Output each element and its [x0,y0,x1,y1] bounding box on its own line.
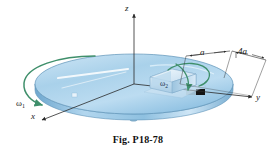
axis-label-z: z [125,4,129,13]
figure-caption: Fig. P18-78 [0,134,276,145]
dimension-label-4a: 4a [238,47,247,56]
omega2-label: ω2 [160,80,168,90]
axis-label-y: y [256,93,260,102]
dimension-label-a: a [200,48,205,57]
figure-container: z x y a 4a ω1 ω2 Fig. P18-78 [0,0,276,162]
omega1-label: ω1 [16,99,25,109]
axis-label-x: x [31,112,35,121]
